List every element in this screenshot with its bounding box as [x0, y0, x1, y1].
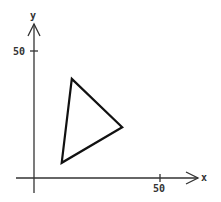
x-axis-label: x: [201, 172, 207, 183]
y-tick-label: 50: [13, 46, 25, 57]
axes: 50 50 y x: [13, 10, 207, 194]
triangle: [62, 79, 122, 163]
coordinate-diagram: 50 50 y x: [0, 0, 221, 202]
x-tick-label: 50: [153, 183, 165, 194]
y-axis-label: y: [30, 10, 36, 21]
